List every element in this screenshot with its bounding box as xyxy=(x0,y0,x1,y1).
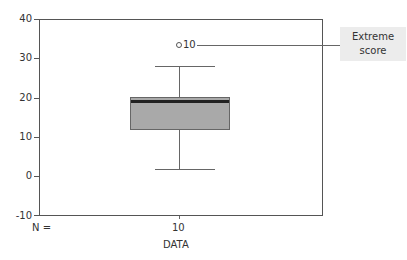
y-tick xyxy=(34,19,39,20)
annotation-line1: Extreme xyxy=(340,30,406,44)
y-tick-label: 10 xyxy=(2,131,32,143)
y-tick xyxy=(34,58,39,59)
annotation-line2: score xyxy=(340,44,406,58)
annotation-leader-line xyxy=(197,45,340,46)
outlier-marker xyxy=(176,42,182,48)
x-category-label: DATA xyxy=(163,239,189,251)
lower-whisker xyxy=(179,130,180,169)
y-tick-label: -10 xyxy=(2,210,32,222)
y-tick-label: 40 xyxy=(2,13,32,25)
y-tick-label: 0 xyxy=(2,170,32,182)
y-tick xyxy=(34,98,39,99)
n-value: 10 xyxy=(172,222,185,234)
annotation-extreme-score: Extreme score xyxy=(340,27,406,61)
n-label: N = xyxy=(32,222,51,234)
y-tick xyxy=(34,176,39,177)
y-tick-label: 20 xyxy=(2,92,32,104)
lower-whisker-cap xyxy=(155,169,215,170)
y-tick xyxy=(34,215,39,216)
x-tick xyxy=(179,216,180,219)
upper-whisker-cap xyxy=(155,66,215,67)
y-tick-label: 30 xyxy=(2,52,32,64)
y-tick xyxy=(34,137,39,138)
median-line xyxy=(131,100,229,103)
outlier-label: 10 xyxy=(183,39,196,51)
upper-whisker xyxy=(179,66,180,98)
